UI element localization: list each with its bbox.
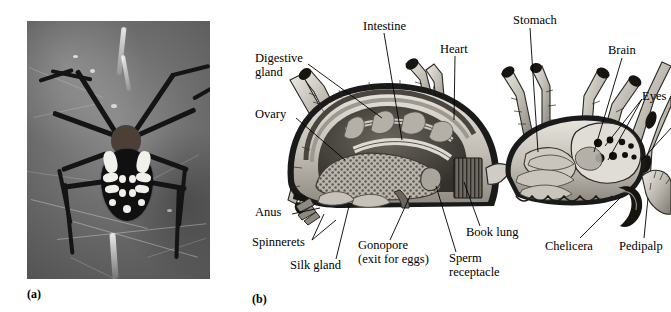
abdomen-marking	[135, 150, 152, 174]
abdomen-marking	[129, 175, 136, 183]
eye	[619, 139, 625, 145]
label-ovary: Ovary	[255, 108, 286, 122]
abdomen-marking	[119, 175, 126, 183]
abdomen-marking	[102, 150, 119, 174]
label-chelicera: Chelicera	[545, 240, 593, 254]
figure-spider-anatomy: (a)	[0, 0, 671, 312]
label-silk-gland: Silk gland	[290, 259, 341, 273]
panel-a-caption: (a)	[27, 287, 41, 302]
web-dew-speck	[90, 69, 95, 73]
web-dew-speck	[167, 209, 172, 212]
panel-b-caption: (b)	[252, 292, 267, 307]
eye	[622, 152, 628, 158]
eye	[631, 154, 636, 159]
label-spinnerets: Spinnerets	[252, 236, 305, 250]
panel-a-photograph: (a)	[0, 0, 250, 312]
label-sperm-receptacle: Sperm receptacle	[449, 252, 500, 279]
abdomen-marking	[119, 189, 126, 197]
label-stomach: Stomach	[513, 14, 557, 28]
brain	[575, 147, 602, 170]
eye	[609, 152, 617, 160]
label-eyes: Eyes	[642, 90, 666, 104]
abdomen-marking	[105, 184, 120, 193]
abdomen-marking	[135, 172, 151, 183]
label-book-lung: Book lung	[466, 226, 518, 240]
abdomen-marking	[123, 205, 131, 213]
label-intestine: Intestine	[363, 20, 406, 34]
abdomen-marking	[102, 172, 118, 183]
abdomen-marking	[129, 189, 136, 197]
label-gonopore: Gonopore (exit for eggs)	[358, 239, 429, 266]
web-dew-speck	[73, 55, 78, 58]
sperm-receptacle	[421, 168, 441, 191]
label-anus: Anus	[255, 206, 281, 220]
label-digestive-gland: Digestive gland	[255, 52, 303, 79]
book-lung	[454, 158, 482, 198]
abdomen-marking	[138, 199, 145, 206]
label-pedipalp: Pedipalp	[619, 240, 663, 254]
spider-photograph	[27, 21, 210, 279]
eye	[628, 143, 634, 149]
label-brain: Brain	[608, 44, 636, 58]
abdomen-marking	[135, 184, 150, 193]
abdomen-marking	[109, 199, 116, 206]
panel-b-diagram: Digestive gland Ovary Anus Spinnerets Si…	[250, 0, 671, 312]
pedipalp	[642, 170, 671, 214]
eye	[607, 137, 614, 144]
web-dew-speck	[111, 104, 117, 108]
label-heart: Heart	[440, 43, 468, 57]
eye	[594, 139, 602, 147]
